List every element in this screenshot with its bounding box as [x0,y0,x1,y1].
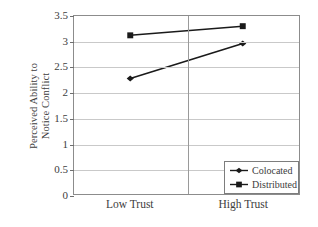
legend-marker-diamond-icon [229,165,249,176]
data-point-marker-square [127,32,133,38]
chart-container: Perceived Ability to Notice Conflict 00.… [0,0,318,227]
y-axis-tick-mark [70,145,74,146]
chart-legend: ColocatedDistributed [224,161,299,194]
y-axis-tick-label: 1 [36,138,68,149]
y-axis-tick-labels: 00.511.522.533.5 [36,0,68,227]
y-axis-tick-mark [70,170,74,171]
series-line-colocated [130,43,243,78]
legend-label: Distributed [252,180,297,190]
y-axis-tick-label: 0.5 [36,164,68,175]
y-axis-tick-label: 0 [36,190,68,201]
y-axis-tick-mark [70,119,74,120]
gridline [74,67,299,68]
gridline [74,93,299,94]
data-point-marker-square [240,23,246,29]
y-axis-tick-label: 3 [36,35,68,46]
data-point-marker-diamond [127,76,134,82]
y-axis-tick-label: 1.5 [36,112,68,123]
y-axis-tick-mark [70,16,74,17]
legend-item-colocated[interactable]: Colocated [229,164,295,177]
y-axis-tick-mark [70,93,74,94]
x-axis-tick-labels: Low TrustHigh Trust [73,198,300,222]
gridline [74,145,299,146]
series-line-distributed [130,26,243,35]
x-axis-tick-label: Low Trust [106,198,154,211]
y-axis-tick-mark [70,67,74,68]
y-axis-tick-mark [70,42,74,43]
legend-item-distributed[interactable]: Distributed [229,178,295,191]
x-axis-tick-label: High Trust [218,198,268,211]
y-axis-tick-label: 3.5 [36,10,68,21]
data-point-marker-square [236,182,242,188]
category-divider [188,16,189,194]
gridline [74,42,299,43]
legend-label: Colocated [252,166,293,176]
y-axis-tick-mark [70,196,74,197]
y-axis-tick-label: 2 [36,87,68,98]
y-axis-tick-label: 2.5 [36,61,68,72]
legend-marker-square-icon [229,179,249,190]
data-point-marker-diamond [236,168,243,174]
gridline [74,119,299,120]
